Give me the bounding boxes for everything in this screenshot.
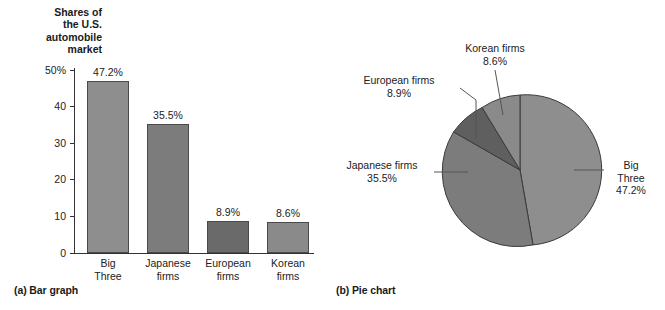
y-tick-label-30: 30 [20, 137, 66, 149]
pie-chart-panel: Korean firms 8.6% European firms 8.9% Ja… [332, 0, 665, 310]
y-axis-line [74, 68, 75, 254]
bar-value-label-european-firms: 8.9% [198, 206, 258, 218]
pie-label-big-three: Big Three 47.2% [606, 159, 656, 197]
bar-european-firms [207, 221, 249, 253]
bar-category-label-european-firms: European firms [196, 257, 260, 282]
bar-value-label-japanese-firms: 35.5% [138, 109, 198, 121]
bar-category-label-korean-firms: Korean firms [257, 257, 319, 282]
y-tick-mark-10 [70, 216, 74, 217]
y-tick-label-50: 50% [20, 64, 66, 76]
pie-label-korean-firms: Korean firms 8.6% [430, 42, 560, 67]
y-tick-label-40: 40 [20, 100, 66, 112]
bar-korean-firms [267, 222, 309, 253]
y-tick-mark-0 [70, 253, 74, 254]
y-tick-mark-50 [70, 70, 74, 71]
pie-label-japanese-firms: Japanese firms 35.5% [330, 159, 434, 184]
bar-graph-caption: (a) Bar graph [14, 284, 78, 296]
bar-value-label-korean-firms: 8.6% [258, 207, 318, 219]
bar-graph-panel: Shares of the U.S. automobile market 50%… [0, 0, 332, 310]
y-tick-mark-40 [70, 106, 74, 107]
bar-big-three [87, 81, 129, 253]
bar-chart-title: Shares of the U.S. automobile market [0, 6, 102, 56]
y-tick-label-10: 10 [20, 210, 66, 222]
y-tick-mark-20 [70, 179, 74, 180]
bar-value-label-big-three: 47.2% [78, 66, 138, 78]
pie-chart-caption: (b) Pie chart [336, 284, 395, 296]
y-tick-mark-30 [70, 143, 74, 144]
y-tick-label-20: 20 [20, 173, 66, 185]
bar-category-label-big-three: Big Three [78, 257, 138, 282]
y-tick-label-0: 0 [20, 247, 66, 259]
x-axis-line [74, 253, 314, 254]
bar-category-label-japanese-firms: Japanese firms [136, 257, 200, 282]
pie-label-european-firms: European firms 8.9% [336, 74, 462, 99]
bar-japanese-firms [147, 124, 189, 253]
